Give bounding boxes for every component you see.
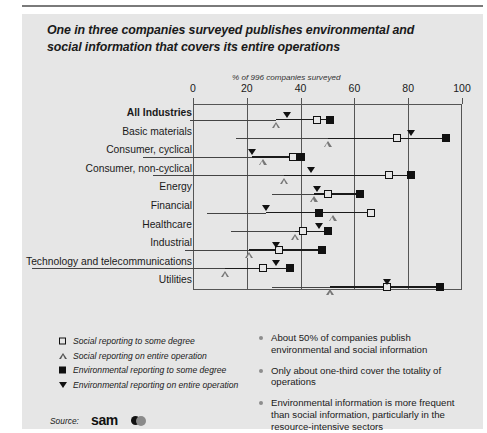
data-marker-open-square: [367, 209, 375, 217]
chart-row: Basic materials: [0, 126, 487, 146]
chart-row: All Industries: [0, 107, 487, 127]
row-label-underline: [153, 175, 284, 176]
triangle-up-icon: [59, 353, 67, 359]
data-marker-filled-square: [286, 264, 294, 272]
row-label-underline: [207, 213, 265, 214]
row-label: Consumer, non-cyclical: [86, 163, 192, 175]
data-marker-triangle-up: [329, 215, 337, 221]
chart-subtitle: % of 996 companies surveyed: [232, 73, 340, 82]
data-marker-filled-square: [297, 153, 305, 161]
bullet-item: Environmental information is more freque…: [258, 397, 473, 432]
row-label-underline: [32, 268, 225, 269]
legend-item: Social reporting on entire operation: [58, 349, 258, 364]
row-label: Technology and telecommunications: [26, 256, 192, 268]
bullet-dot-icon: [259, 401, 263, 405]
page-title: One in three companies surveyed publishe…: [47, 22, 447, 55]
row-label: Consumer, cyclical: [106, 144, 192, 156]
row-connector-line: [276, 119, 330, 120]
row-label-underline: [231, 231, 295, 232]
data-marker-triangle-up: [245, 252, 253, 258]
data-marker-triangle-down: [248, 149, 256, 155]
triangle-down-icon: [59, 382, 67, 388]
legend-item: Environmental reporting on entire operat…: [58, 378, 258, 393]
x-tick-label: 60: [349, 82, 361, 94]
data-marker-filled-square: [407, 171, 415, 179]
data-marker-triangle-down: [315, 223, 323, 229]
legend-label: Environmental reporting to some degree: [73, 365, 226, 375]
data-marker-triangle-up: [310, 196, 318, 202]
top-divider: [22, 5, 483, 7]
legend-label: Social reporting on entire operation: [73, 351, 207, 361]
legend-label: Environmental reporting on entire operat…: [73, 380, 238, 390]
data-marker-triangle-down: [272, 260, 280, 266]
data-marker-open-square: [259, 264, 267, 272]
data-marker-triangle-down: [383, 279, 391, 285]
insight-bullets: About 50% of companies publish environme…: [258, 332, 473, 433]
chart-rows: All IndustriesBasic materialsConsumer, c…: [0, 104, 487, 290]
data-marker-open-square: [385, 171, 393, 179]
x-tick-label: 20: [241, 82, 253, 94]
data-marker-filled-square: [442, 134, 450, 142]
data-marker-triangle-down: [407, 130, 415, 136]
chart-row: Technology and telecommunications: [0, 256, 487, 276]
data-marker-triangle-up: [326, 289, 334, 295]
source-label: Source:: [50, 416, 79, 426]
row-label: Healthcare: [142, 219, 192, 231]
data-marker-triangle-up: [259, 159, 267, 165]
chart-row: Financial: [0, 200, 487, 220]
row-label-underline: [236, 138, 328, 139]
data-marker-triangle-up: [272, 122, 280, 128]
bullet-dot-icon: [259, 336, 263, 340]
x-tick-label: 100: [453, 82, 471, 94]
legend-item: Social reporting to some degree: [58, 334, 258, 349]
filled-square-icon: [59, 367, 66, 374]
bullet-text: Only about one-third cover the totality …: [271, 365, 441, 388]
data-marker-open-square: [289, 153, 297, 161]
data-marker-filled-square: [436, 283, 444, 291]
row-label: Financial: [151, 200, 192, 212]
row-label: Basic materials: [122, 126, 192, 138]
sam-logo-text: sam: [91, 412, 118, 428]
row-label-underline: [272, 287, 330, 288]
chart-row: Industrial: [0, 237, 487, 257]
data-marker-triangle-up: [324, 141, 332, 147]
data-marker-triangle-down: [283, 112, 291, 118]
row-label-underline: [190, 120, 276, 121]
data-marker-open-square: [393, 134, 401, 142]
data-marker-filled-square: [318, 246, 326, 254]
legend: Social reporting to some degreeSocial re…: [58, 334, 258, 392]
x-tick-label: 80: [402, 82, 414, 94]
row-label-underline: [185, 250, 249, 251]
chart-row: Consumer, non-cyclical: [0, 163, 487, 183]
sam-logo-dot-gray: [136, 416, 146, 426]
data-marker-open-square: [324, 190, 332, 198]
x-axis-labels: 020406080100: [0, 82, 487, 96]
row-label: Industrial: [150, 237, 192, 249]
open-square-icon: [59, 338, 66, 345]
data-marker-triangle-up: [221, 271, 229, 277]
data-marker-triangle-down: [307, 167, 315, 173]
row-label: Utilities: [159, 274, 192, 286]
legend-item: Environmental reporting to some degree: [58, 363, 258, 378]
data-marker-filled-square: [326, 116, 334, 124]
chart-row: Consumer, cyclical: [0, 144, 487, 164]
data-marker-filled-square: [315, 209, 323, 217]
data-marker-filled-square: [356, 190, 364, 198]
chart-row: Energy: [0, 181, 487, 201]
data-marker-triangle-up: [291, 234, 299, 240]
data-marker-triangle-up: [280, 178, 288, 184]
row-label-underline: [272, 194, 314, 195]
legend-label: Social reporting to some degree: [73, 336, 195, 346]
bullet-item: Only about one-third cover the totality …: [258, 365, 473, 389]
bullet-item: About 50% of companies publish environme…: [258, 332, 473, 356]
data-marker-triangle-down: [272, 242, 280, 248]
data-marker-triangle-down: [262, 205, 270, 211]
bullet-dot-icon: [259, 369, 263, 373]
chart-row: Healthcare: [0, 219, 487, 239]
bullet-text: About 50% of companies publish environme…: [271, 332, 427, 355]
data-marker-open-square: [299, 227, 307, 235]
row-connector-line: [249, 249, 322, 250]
x-tick-label: 0: [190, 82, 196, 94]
row-label-underline: [143, 157, 252, 158]
bullet-text: Environmental information is more freque…: [271, 397, 454, 432]
